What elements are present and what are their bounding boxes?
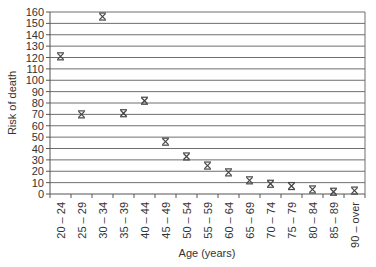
data-point-marker	[99, 13, 106, 20]
y-tick-label: 80	[32, 97, 44, 109]
gridlines	[46, 12, 365, 194]
data-point-marker	[288, 183, 295, 190]
y-tick-label: 0	[38, 188, 44, 200]
data-point-marker	[204, 162, 211, 169]
data-point-marker	[183, 153, 190, 160]
data-point-marker	[267, 180, 274, 187]
x-tick-label: 80 – 84	[307, 202, 319, 239]
y-tick-label: 100	[26, 74, 44, 86]
y-tick-label: 20	[32, 165, 44, 177]
data-point-marker	[120, 110, 127, 117]
y-tick-label: 130	[26, 40, 44, 52]
x-tick-label: 35 – 39	[118, 202, 130, 239]
x-tick-label: 45 – 49	[160, 202, 172, 239]
data-point-marker	[225, 169, 232, 176]
x-tick-label: 40 – 44	[139, 202, 151, 239]
x-tick-label: 25 – 29	[76, 202, 88, 239]
y-tick-label: 90	[32, 86, 44, 98]
y-tick-label: 150	[26, 17, 44, 29]
x-tick-label: 65 – 69	[244, 202, 256, 239]
data-point-marker	[351, 187, 358, 194]
data-point-marker	[162, 138, 169, 145]
y-tick-label: 120	[26, 52, 44, 64]
y-tick-label: 40	[32, 143, 44, 155]
y-axis-tick-labels: 0102030405060708090100110120130140150160	[26, 6, 44, 200]
x-axis-title: Age (years)	[179, 247, 236, 259]
x-tick-label: 90 – over	[349, 202, 361, 248]
x-tick-label: 20 – 24	[55, 202, 67, 239]
y-axis-title: Risk of death	[6, 71, 18, 135]
x-tick-label: 60 – 64	[223, 202, 235, 239]
x-axis-ticks	[50, 194, 365, 198]
x-tick-label: 55 – 59	[202, 202, 214, 239]
y-tick-label: 70	[32, 108, 44, 120]
y-tick-label: 60	[32, 120, 44, 132]
y-tick-label: 110	[26, 63, 44, 75]
y-tick-label: 30	[32, 154, 44, 166]
x-tick-label: 50 – 54	[181, 202, 193, 239]
y-tick-label: 140	[26, 29, 44, 41]
y-tick-label: 160	[26, 6, 44, 18]
x-tick-label: 70 – 74	[265, 202, 277, 239]
data-point-marker	[309, 186, 316, 193]
data-points	[57, 13, 358, 195]
x-axis-tick-labels: 20 – 2425 – 2930 – 3435 – 3940 – 4445 – …	[55, 202, 361, 248]
x-tick-label: 75 – 79	[286, 202, 298, 239]
y-tick-label: 10	[32, 177, 44, 189]
risk-of-death-chart: 0102030405060708090100110120130140150160…	[0, 0, 376, 267]
data-point-marker	[57, 53, 64, 60]
y-tick-label: 50	[32, 131, 44, 143]
x-tick-label: 30 – 34	[97, 202, 109, 239]
x-tick-label: 85 – 89	[328, 202, 340, 239]
